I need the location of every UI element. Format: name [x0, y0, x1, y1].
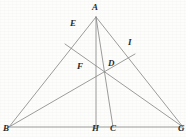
- segments-group: [9, 17, 183, 127]
- point-label-G: G: [178, 124, 185, 133]
- point-label-A: A: [92, 3, 98, 12]
- point-label-F: F: [77, 62, 83, 71]
- point-label-E: E: [70, 19, 76, 28]
- point-label-I: I: [128, 38, 132, 47]
- figure-canvas: [0, 0, 186, 137]
- segment-cevian-bi: [9, 54, 135, 127]
- segment-cevian-eg: [65, 44, 183, 127]
- point-label-B: B: [3, 124, 9, 133]
- point-label-D: D: [108, 59, 115, 68]
- point-label-C: C: [110, 124, 116, 133]
- point-label-H: H: [92, 124, 99, 133]
- segment-side-ag: [96, 17, 183, 127]
- geometry-figure: A B G E I F D H C: [0, 0, 186, 137]
- segment-side-ab: [9, 17, 96, 127]
